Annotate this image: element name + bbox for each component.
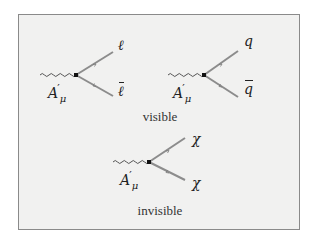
chi-label-bottom: χ xyxy=(192,176,200,190)
vertex-dot xyxy=(202,73,206,77)
boson-subscript: μ xyxy=(185,93,192,104)
antilepton-label: ℓ xyxy=(118,84,124,98)
antilepton-symbol: ℓ xyxy=(118,84,124,98)
lepton-label: ℓ xyxy=(118,38,124,52)
vertex-dot xyxy=(147,160,151,164)
boson-subscript: μ xyxy=(132,180,139,191)
boson-label-lepton: A′μ xyxy=(48,83,66,104)
boson-subscript: μ xyxy=(60,93,67,104)
antiquark-label: q xyxy=(244,82,253,96)
chi-label-top: χ xyxy=(192,132,200,146)
photon-wavy-line xyxy=(168,74,204,77)
fermion-line-top xyxy=(204,51,238,75)
fermion-line-top xyxy=(76,52,113,75)
antiquark-symbol: q xyxy=(244,82,253,96)
quark-label: q xyxy=(244,34,253,48)
caption-visible: visible xyxy=(143,110,178,123)
boson-label-dark: A′μ xyxy=(120,170,138,191)
photon-wavy-line xyxy=(40,74,76,77)
fermion-line-top xyxy=(149,138,185,162)
vertex-dot xyxy=(74,73,78,77)
fermion-line-bottom xyxy=(204,75,238,97)
fermion-line-bottom xyxy=(76,75,113,96)
caption-invisible: invisible xyxy=(138,204,183,217)
boson-label-quark: A′μ xyxy=(173,83,191,104)
photon-wavy-line xyxy=(113,161,149,164)
